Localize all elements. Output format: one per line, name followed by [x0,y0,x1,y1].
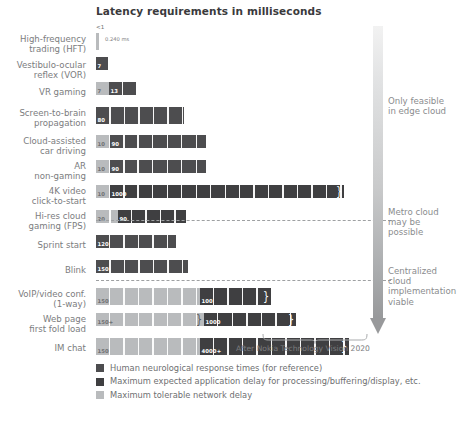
bar-segment-net: 20 [96,210,118,223]
segment-value-label: 7 [98,64,102,70]
chart-legend: Human neurological response times (for r… [96,362,421,403]
segment-value-label: 10 [98,142,106,148]
segment-value-label: 90 [112,142,120,148]
segment-ticks [96,260,188,273]
row-label: Screen-to-brain propagation [19,109,86,128]
bar-segment-neuro: 90 [110,160,206,173]
bar-row: 1090 [96,135,206,148]
legend-item-app: Maximum expected application delay for p… [96,376,421,388]
legend-label-neuro: Human neurological response times (for r… [110,364,322,373]
plot-area: <10.240 ms77138010901090101000}209012015… [96,31,364,338]
segment-ticks [96,107,184,124]
segment-value-label: 150+ [98,320,114,326]
segment-value-label: 80 [98,118,106,124]
bar-segment-neuro: 7 [96,57,108,70]
bar-segment-net [96,33,99,50]
row-label: Vestibulo-ocular reflex (VOR) [17,61,86,80]
bar-row [96,33,99,50]
zone-caption-metro-cloud: Metro cloud may be possible [388,207,439,238]
bar-segment-net: 7 [96,82,109,95]
segment-value-label: 7 [98,89,102,95]
bar-segment-net: 150 [96,338,200,355]
row-label: Web page first fold load [29,315,86,334]
bar-segment-net: 10 [96,135,110,148]
row-label: Cloud-assisted car driving [23,137,86,156]
row-label: Sprint start [38,241,86,251]
segment-value-label: 10 [98,192,106,198]
axis-break-icon-mid: } [195,313,204,326]
bar-segment-net: 150+ [96,313,204,326]
segment-value-label: 13 [111,89,119,95]
arrow-head-icon [370,318,386,334]
legend-swatch-net [96,391,104,399]
legend-item-net: Maximum tolerable network delay [96,389,421,401]
zone-separator-1 [96,220,391,221]
bar-row: 150 [96,260,188,273]
bar-row: 101000} [96,185,344,198]
bar-segment-neuro: 13 [109,82,136,95]
arrow-shaft [373,26,383,318]
zone-separator-2 [96,280,391,281]
chart-title: Latency requirements in milliseconds [96,5,321,17]
axis-break-icon: } [262,288,271,305]
segment-value-label: 1000 [206,320,221,326]
row-label: VoIP/video conf. (1-way) [18,290,86,309]
zone-caption-centralized-cloud: Centralized cloud implementation viable [388,266,456,307]
bar-segment-neuro: 90 [110,135,206,148]
segment-value-label: 120 [98,242,109,248]
bar-segment-net: 10 [96,185,110,198]
legend-item-neuro: Human neurological response times (for r… [96,362,421,374]
bar-row: 80 [96,107,184,124]
bar-row: 2090 [96,210,186,223]
row-label: VR gaming [39,88,86,98]
row-label: Hi-res cloud gaming (FPS) [29,212,86,231]
row-label: AR non-gaming [34,162,86,181]
zone-caption-edge-cloud: Only feasible in edge cloud [388,96,446,116]
row-label: High-frequency trading (HFT) [20,35,86,54]
bar-segment-net: 10 [96,160,110,173]
legend-label-net: Maximum tolerable network delay [110,391,252,400]
bar-segment-app: 1000 [204,313,296,326]
bar-row: 1090 [96,160,206,173]
segment-value-label: 150 [98,267,109,273]
chart-footnote: After Nokia Technology Vision 2020 [236,344,370,353]
row-label: IM chat [55,344,87,354]
bar-segment-app: 100 [200,288,271,305]
bar-row: 120 [96,235,176,248]
cloud-placement-arrow [370,26,386,338]
segment-ticks [118,210,186,223]
segment-ticks [110,185,344,198]
bar-segment-app: 90 [118,210,186,223]
hft-threshold-marker: <1 [96,24,104,30]
row-label: 4K video click-to-start [32,187,86,206]
axis-break-icon: } [335,185,344,198]
segment-ticks [110,135,206,148]
latency-chart: Latency requirements in milliseconds Hig… [0,0,467,422]
footnote-brace-icon [262,333,368,344]
bar-segment-neuro: 120 [96,235,176,248]
bar-row: 150100} [96,288,271,305]
row-label: Blink [65,266,86,276]
segment-value-label: 150 [98,299,109,305]
hft-value-note: 0.240 ms [105,36,129,42]
segment-ticks [96,33,99,50]
segment-ticks [110,160,206,173]
segment-value-label: 90 [112,167,120,173]
bar-row: 7 [96,57,108,70]
legend-swatch-app [96,378,104,386]
axis-break-icon: } [287,313,296,326]
bar-segment-neuro: 150 [96,260,188,273]
segment-value-label: 100 [202,299,213,305]
row-label-column: High-frequency trading (HFT)Vestibulo-oc… [0,31,90,338]
bar-row: 150+1000}} [96,313,296,326]
legend-label-app: Maximum expected application delay for p… [110,377,421,386]
bar-segment-net: 150 [96,288,200,305]
segment-value-label: 10 [98,167,106,173]
segment-value-label: 1000 [112,192,127,198]
segment-ticks [96,338,200,355]
bar-segment-app: 1000 [110,185,344,198]
segment-ticks [96,288,200,305]
segment-value-label: 150 [98,349,109,355]
segment-value-label: 4000+ [202,349,222,355]
legend-swatch-neuro [96,364,104,372]
